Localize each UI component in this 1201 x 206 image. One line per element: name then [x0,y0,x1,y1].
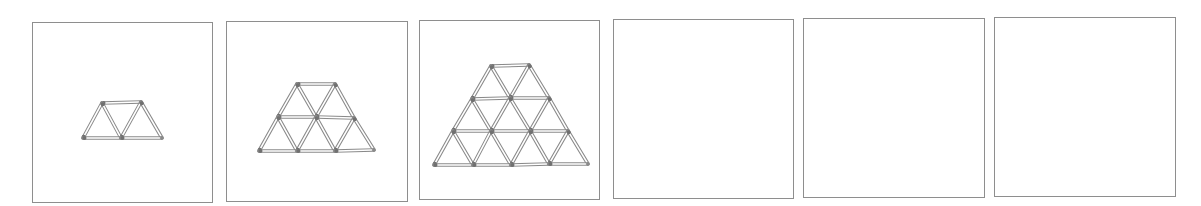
pattern-panel-1 [32,22,213,203]
pattern-panel-4 [613,19,794,199]
pattern-panel-5 [803,18,985,198]
pattern-panel-2 [226,21,408,202]
pattern-panel-3 [419,20,600,200]
pattern-panel-6 [994,17,1176,197]
